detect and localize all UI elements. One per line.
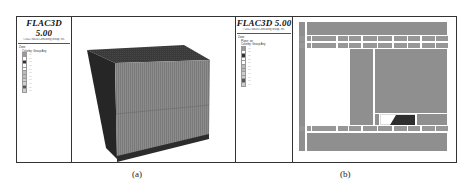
strata-brick xyxy=(312,126,336,131)
strata-brick xyxy=(394,36,407,41)
panel-a: FLAC3D 5.00 ©2012 Itasca Consulting Grou… xyxy=(16,16,236,163)
support-structure xyxy=(390,115,416,125)
legend-swatch xyxy=(22,88,27,93)
strata-brick xyxy=(363,126,377,131)
strata-brick xyxy=(408,36,420,41)
legend-entries: …………………………… xyxy=(238,47,290,87)
strata-brick xyxy=(338,36,348,41)
strata-brick xyxy=(378,43,392,48)
legend-label: … xyxy=(248,83,251,87)
roadway-rib xyxy=(375,114,379,125)
strata-band-1 xyxy=(299,36,447,41)
strata-brick xyxy=(408,126,420,131)
strata-brick xyxy=(436,36,448,41)
legend-entry: … xyxy=(241,83,290,87)
strata-brick xyxy=(307,36,311,41)
strata-brick xyxy=(422,43,435,48)
block-model-3d xyxy=(72,17,235,162)
caption-b: (b) xyxy=(340,169,351,179)
strata-brick xyxy=(436,126,448,131)
strata-brick xyxy=(312,36,336,41)
strata-brick xyxy=(378,126,392,131)
roof-strata xyxy=(307,22,447,35)
strata-brick xyxy=(299,43,305,48)
strata-brick xyxy=(422,36,435,41)
strata-band-3 xyxy=(299,126,447,131)
strata-brick xyxy=(378,36,392,41)
viewport-b xyxy=(293,17,456,162)
app-title: FLAC3D 5.00 xyxy=(236,18,292,28)
strata-brick xyxy=(363,43,377,48)
section-drawing xyxy=(293,17,457,162)
strata-brick xyxy=(349,126,361,131)
left-face xyxy=(87,50,117,159)
solid-coal-lower xyxy=(417,114,447,125)
strata-brick xyxy=(307,43,311,48)
left-pillar xyxy=(299,22,305,151)
strata-brick xyxy=(312,43,336,48)
legend-b: FLAC3D 5.00 ©2012 Itasca Consulting Grou… xyxy=(236,17,293,162)
strata-brick xyxy=(349,36,361,41)
legend-a: FLAC3D 5.00 ©2012 Itasca Consulting Grou… xyxy=(17,17,72,162)
strata-brick xyxy=(363,36,377,41)
strata-brick xyxy=(338,43,348,48)
solid-coal xyxy=(375,49,447,113)
legend-body: Zone Colorby: Group Any …………………………… xyxy=(17,44,71,95)
strata-brick xyxy=(299,126,305,131)
legend-body: Zone Plane: on Colorby: Group Any ………………… xyxy=(236,34,292,88)
strata-brick xyxy=(349,43,361,48)
app-title: FLAC3D 5.00 xyxy=(17,18,71,38)
strata-brick xyxy=(408,43,420,48)
legend-swatch xyxy=(241,82,246,87)
legend-entries: …………………………… xyxy=(19,53,69,93)
strata-brick xyxy=(394,126,407,131)
strata-brick xyxy=(394,43,407,48)
coal-pillar xyxy=(350,49,373,125)
strata-brick xyxy=(299,36,305,41)
strata-brick xyxy=(307,126,311,131)
strata-brick xyxy=(436,43,448,48)
goaf-void xyxy=(308,49,350,125)
legend-label: … xyxy=(29,89,32,93)
caption-a: (a) xyxy=(132,169,142,179)
strata-brick xyxy=(338,126,348,131)
strata-band-2 xyxy=(299,43,447,48)
viewport-a xyxy=(72,17,235,162)
strata-brick xyxy=(422,126,435,131)
legend-entry: … xyxy=(22,89,69,93)
floor-strata xyxy=(307,133,447,151)
panel-b: FLAC3D 5.00 ©2012 Itasca Consulting Grou… xyxy=(235,16,457,163)
